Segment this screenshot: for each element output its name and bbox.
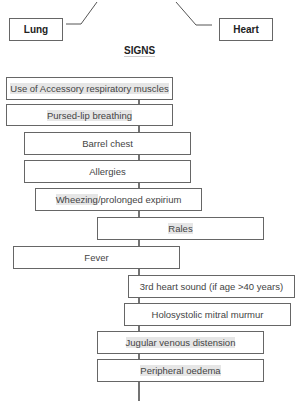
lung-label: Lung bbox=[24, 24, 48, 35]
sign-holosystolic-murmur: Holosystolic mitral murmur bbox=[124, 303, 291, 326]
lung-node: Lung bbox=[9, 18, 63, 41]
sign-fever: Fever bbox=[13, 246, 180, 269]
heart-label: Heart bbox=[233, 24, 259, 35]
sign-wheezing: Wheezing/prolonged expirium bbox=[35, 188, 202, 211]
sign-pursed-lip: Pursed-lip breathing bbox=[6, 104, 173, 126]
sign-accessory-muscles: Use of Accessory respiratory muscles bbox=[6, 77, 173, 100]
signs-title: SIGNS bbox=[124, 45, 155, 57]
sign-third-heart-sound: 3rd heart sound (if age >40 years) bbox=[128, 275, 295, 298]
sign-peripheral-oedema: Peripheral oedema bbox=[97, 359, 264, 382]
sign-jugular-distension: Jugular venous distension bbox=[97, 331, 264, 354]
sign-rales: Rales bbox=[97, 217, 264, 240]
sign-barrel-chest: Barrel chest bbox=[24, 132, 191, 155]
heart-node: Heart bbox=[219, 18, 273, 41]
sign-allergies: Allergies bbox=[24, 160, 191, 183]
